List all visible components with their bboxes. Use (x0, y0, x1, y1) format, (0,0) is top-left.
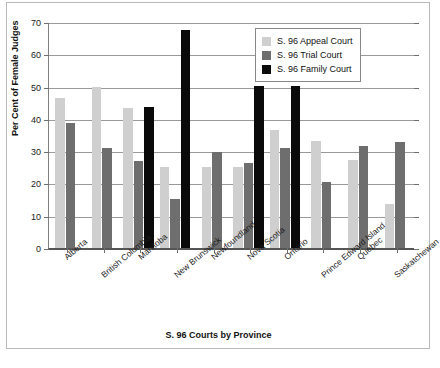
bar (170, 199, 180, 248)
legend-item[interactable]: S. 96 Family Court (262, 62, 353, 76)
chart-legend: S. 96 Appeal CourtS. 96 Trial CourtS. 96… (255, 28, 361, 82)
bar-group (122, 23, 159, 248)
y-tick-label-50: 50 (31, 83, 41, 93)
legend-swatch-icon (262, 51, 271, 60)
bar (212, 152, 222, 248)
bar (55, 98, 65, 248)
bar (92, 87, 102, 248)
bar-group (49, 23, 86, 248)
bar-group (378, 23, 415, 248)
y-tick-label-20: 20 (31, 179, 41, 189)
y-tick-label-30: 30 (31, 147, 41, 157)
legend-item[interactable]: S. 96 Trial Court (262, 48, 353, 62)
bar (254, 86, 264, 248)
bar (144, 107, 154, 248)
y-tick-label-70: 70 (31, 18, 41, 28)
y-axis-title: Per Cent of Female Judges (10, 20, 20, 136)
bar (322, 182, 332, 248)
bar (395, 142, 405, 248)
bar (123, 108, 133, 248)
legend-item-label: S. 96 Trial Court (277, 50, 342, 60)
x-axis-tick-labels: AlbertaBritish ColumbiaManitobaNew Bruns… (48, 250, 414, 325)
bar (291, 86, 301, 248)
y-tick-label-10: 10 (31, 212, 41, 222)
bar (102, 148, 112, 248)
y-tick-label-60: 60 (31, 50, 41, 60)
bar-group (195, 23, 232, 248)
legend-swatch-icon (262, 37, 271, 46)
bar (348, 160, 358, 248)
x-axis-title: S. 96 Courts by Province (0, 330, 437, 340)
legend-item[interactable]: S. 96 Appeal Court (262, 34, 353, 48)
y-tick-label-40: 40 (31, 115, 41, 125)
bar (181, 30, 191, 248)
bar (311, 141, 321, 249)
legend-swatch-icon (262, 65, 271, 74)
legend-item-label: S. 96 Appeal Court (277, 36, 353, 46)
y-tick-label-0: 0 (36, 244, 41, 254)
legend-item-label: S. 96 Family Court (277, 64, 352, 74)
bar (202, 167, 212, 248)
bar-group (159, 23, 196, 248)
bar (66, 123, 76, 248)
bar-group (86, 23, 123, 248)
